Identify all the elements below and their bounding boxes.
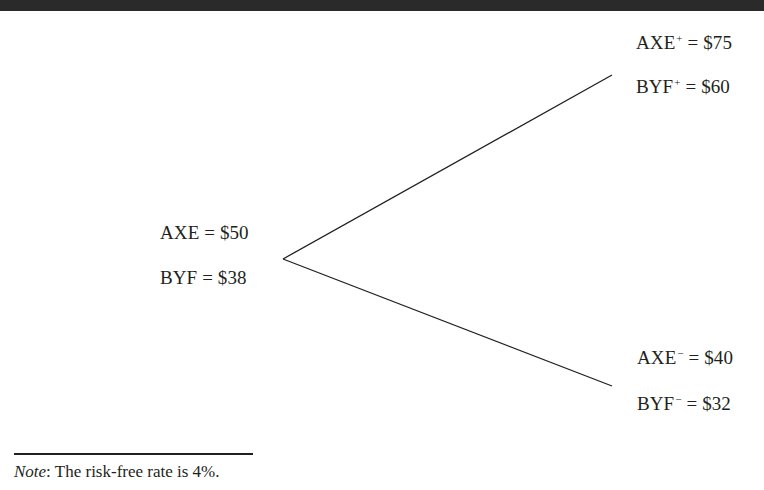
footnote-text: The risk-free rate is 4%. <box>51 462 220 481</box>
up-axe-label: AXE+ = $75 <box>636 32 732 56</box>
root-byf-value: $38 <box>218 267 247 288</box>
up-axe-name: AXE <box>636 32 675 53</box>
up-byf-superscript: + <box>674 76 680 88</box>
down-byf-label: BYF− = $32 <box>637 393 731 417</box>
root-axe-equals: = <box>204 222 215 243</box>
down-axe-name: AXE <box>637 347 676 368</box>
down-byf-superscript: − <box>675 393 681 405</box>
root-byf-label: BYF = $38 <box>160 267 247 289</box>
down-byf-value: $32 <box>702 393 731 414</box>
root-byf-equals: = <box>202 267 213 288</box>
down-axe-equals: = <box>689 347 700 368</box>
up-byf-value: $60 <box>701 76 730 97</box>
root-byf-name: BYF <box>160 267 197 288</box>
up-branch-line <box>283 75 612 259</box>
up-byf-name: BYF <box>636 76 673 97</box>
up-axe-value: $75 <box>703 32 732 53</box>
down-byf-equals: = <box>686 393 697 414</box>
footnote-prefix: Note <box>14 462 46 481</box>
down-axe-superscript: − <box>677 347 683 359</box>
root-axe-value: $50 <box>220 222 249 243</box>
footnote-rule <box>14 453 253 455</box>
up-byf-equals: = <box>685 76 696 97</box>
down-branch-line <box>283 259 612 386</box>
down-byf-name: BYF <box>637 393 674 414</box>
down-axe-value: $40 <box>704 347 733 368</box>
up-byf-label: BYF+ = $60 <box>636 76 730 100</box>
up-axe-equals: = <box>688 32 699 53</box>
up-axe-superscript: + <box>676 32 682 44</box>
root-axe-name: AXE <box>160 222 199 243</box>
root-axe-label: AXE = $50 <box>160 222 249 244</box>
down-axe-label: AXE− = $40 <box>637 347 733 371</box>
footnote: Note: The risk-free rate is 4%. <box>14 461 220 483</box>
